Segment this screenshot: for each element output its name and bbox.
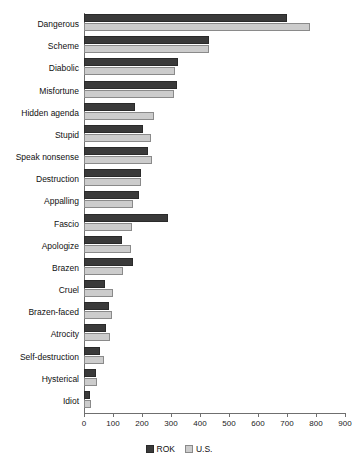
bar-us (84, 223, 132, 231)
bar-rok (84, 214, 168, 222)
x-axis-tick (84, 413, 85, 417)
x-axis-tick-label: 0 (82, 419, 86, 428)
x-axis-line (84, 413, 346, 414)
x-axis-tick (113, 413, 114, 417)
category-label: Diabolic (49, 63, 79, 73)
chart-row: Fascio (84, 213, 345, 235)
plot-area: DangerousSchemeDiabolicMisfortuneHidden … (84, 13, 345, 412)
x-axis-tick-label: 900 (338, 419, 351, 428)
bar-us (84, 156, 152, 164)
category-label: Idiot (63, 396, 79, 406)
bar-us (84, 333, 110, 341)
bar-us (84, 23, 310, 31)
bar-rok (84, 236, 122, 244)
x-axis-tick (200, 413, 201, 417)
x-axis-tick-label: 200 (135, 419, 148, 428)
x-axis-tick (316, 413, 317, 417)
chart-legend: ROKU.S. (0, 444, 358, 454)
bar-rok (84, 191, 139, 199)
x-axis-tick (229, 413, 230, 417)
bar-us (84, 67, 175, 75)
category-label: Hysterical (42, 374, 79, 384)
bar-rok (84, 369, 96, 377)
chart-row: Idiot (84, 390, 345, 412)
category-label: Scheme (48, 41, 79, 51)
category-label: Brazen (52, 263, 79, 273)
bar-rok (84, 81, 177, 89)
bar-us (84, 90, 174, 98)
bar-us (84, 400, 91, 408)
chart-row: Stupid (84, 124, 345, 146)
bar-us (84, 245, 131, 253)
x-axis-tick (171, 413, 172, 417)
legend-item: U.S. (185, 444, 213, 454)
category-label: Destruction (36, 174, 79, 184)
chart-row: Self-destruction (84, 346, 345, 368)
legend-label: ROK (157, 444, 175, 454)
bar-rok (84, 125, 143, 133)
category-label: Hidden agenda (21, 108, 79, 118)
category-label: Apologize (42, 241, 79, 251)
chart-row: Atrocity (84, 323, 345, 345)
category-label: Fascio (54, 219, 79, 229)
bar-us (84, 311, 112, 319)
category-label: Dangerous (37, 19, 79, 29)
x-axis-tick-label: 300 (164, 419, 177, 428)
chart-row: Destruction (84, 168, 345, 190)
bar-us (84, 45, 209, 53)
x-axis-tick (142, 413, 143, 417)
bar-us (84, 289, 113, 297)
bar-us (84, 134, 151, 142)
bar-rok (84, 103, 135, 111)
chart-row: Brazen (84, 257, 345, 279)
legend-label: U.S. (196, 444, 213, 454)
x-axis-tick (287, 413, 288, 417)
category-label: Misfortune (39, 86, 79, 96)
bar-rok (84, 347, 100, 355)
x-axis-tick (345, 413, 346, 417)
bar-rok (84, 58, 178, 66)
category-label: Appalling (44, 196, 79, 206)
chart-row: Cruel (84, 279, 345, 301)
chart-row: Scheme (84, 35, 345, 57)
chart-row: Hysterical (84, 368, 345, 390)
chart-row: Brazen-faced (84, 301, 345, 323)
chart-row: Dangerous (84, 13, 345, 35)
x-axis-tick (258, 413, 259, 417)
bar-rok (84, 302, 109, 310)
light-square-swatch (185, 445, 193, 453)
bar-us (84, 178, 141, 186)
bar-rok (84, 391, 90, 399)
category-label: Speak nonsense (16, 152, 79, 162)
bar-us (84, 378, 97, 386)
bar-us (84, 356, 104, 364)
category-label: Stupid (55, 130, 79, 140)
chart-row: Diabolic (84, 57, 345, 79)
bar-rok (84, 280, 105, 288)
x-axis-tick-label: 700 (280, 419, 293, 428)
bar-chart: 0100200300400500600700800900 DangerousSc… (0, 0, 358, 470)
bar-rok (84, 169, 141, 177)
x-axis-tick-label: 600 (251, 419, 264, 428)
chart-row: Apologize (84, 235, 345, 257)
chart-row: Appalling (84, 190, 345, 212)
bar-rok (84, 36, 209, 44)
bar-rok (84, 14, 287, 22)
bar-rok (84, 258, 133, 266)
category-label: Self-destruction (20, 352, 79, 362)
x-axis-tick-label: 400 (193, 419, 206, 428)
bar-rok (84, 147, 148, 155)
category-label: Atrocity (51, 329, 79, 339)
x-axis-tick-label: 500 (222, 419, 235, 428)
x-axis-tick-label: 100 (106, 419, 119, 428)
chart-row: Speak nonsense (84, 146, 345, 168)
category-label: Cruel (59, 285, 79, 295)
bar-us (84, 267, 123, 275)
x-axis-tick-label: 800 (309, 419, 322, 428)
legend-item: ROK (146, 444, 175, 454)
bar-rok (84, 324, 106, 332)
chart-row: Hidden agenda (84, 102, 345, 124)
bar-us (84, 112, 154, 120)
category-label: Brazen-faced (28, 307, 79, 317)
chart-row: Misfortune (84, 80, 345, 102)
